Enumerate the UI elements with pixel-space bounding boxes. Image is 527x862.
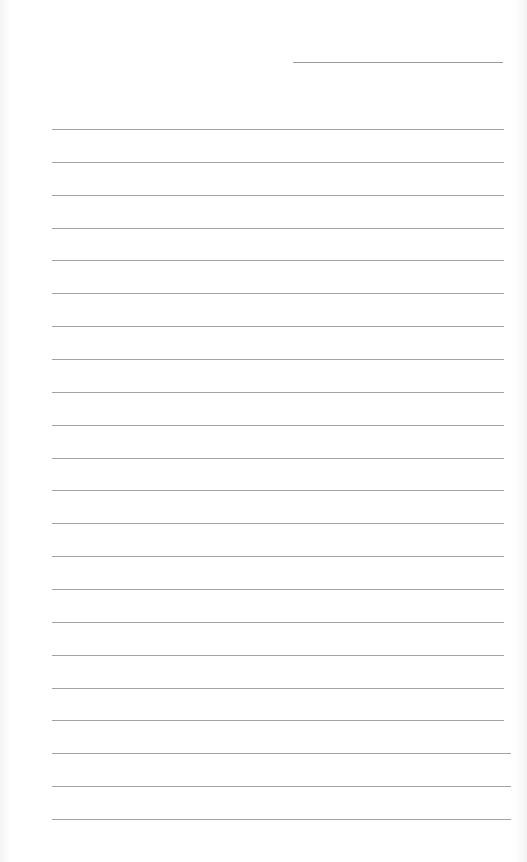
ruled-line-text[interactable]	[54, 374, 502, 392]
ruled-line-text[interactable]	[54, 210, 502, 228]
ruled-lines	[0, 0, 527, 862]
ruled-line-text[interactable]	[54, 472, 502, 490]
ruled-line-text[interactable]	[54, 538, 502, 556]
ruled-line-text[interactable]	[54, 637, 502, 655]
ruled-line	[52, 392, 504, 393]
ruled-line	[52, 556, 504, 557]
ruled-line-text[interactable]	[54, 670, 502, 688]
ruled-line-text[interactable]	[54, 702, 502, 720]
ruled-line-text[interactable]	[54, 768, 502, 786]
ruled-line	[52, 523, 504, 524]
ruled-line-text[interactable]	[54, 177, 502, 195]
ruled-line	[52, 753, 511, 754]
ruled-line	[52, 195, 504, 196]
ruled-line	[52, 490, 504, 491]
notebook-page	[0, 0, 527, 862]
ruled-line	[52, 162, 504, 163]
ruled-line	[52, 228, 504, 229]
ruled-line	[52, 688, 504, 689]
ruled-line-text[interactable]	[54, 111, 502, 129]
ruled-line-text[interactable]	[54, 407, 502, 425]
ruled-line	[52, 786, 511, 787]
ruled-line	[52, 720, 504, 721]
ruled-line	[52, 425, 504, 426]
ruled-line	[52, 655, 504, 656]
ruled-line-text[interactable]	[54, 275, 502, 293]
ruled-line	[52, 326, 504, 327]
ruled-line-text[interactable]	[54, 308, 502, 326]
ruled-line-text[interactable]	[54, 571, 502, 589]
ruled-line-text[interactable]	[54, 144, 502, 162]
ruled-line-text[interactable]	[54, 440, 502, 458]
ruled-line-text[interactable]	[54, 801, 502, 819]
ruled-line	[52, 589, 504, 590]
ruled-line-text[interactable]	[54, 735, 502, 753]
ruled-line-text[interactable]	[54, 242, 502, 260]
ruled-line	[52, 129, 504, 130]
ruled-line-text[interactable]	[54, 604, 502, 622]
ruled-line	[52, 458, 504, 459]
ruled-line	[52, 622, 504, 623]
ruled-line	[52, 359, 504, 360]
ruled-line	[52, 819, 511, 820]
ruled-line-text[interactable]	[54, 341, 502, 359]
ruled-line	[52, 293, 504, 294]
ruled-line	[52, 260, 504, 261]
ruled-line-text[interactable]	[54, 505, 502, 523]
